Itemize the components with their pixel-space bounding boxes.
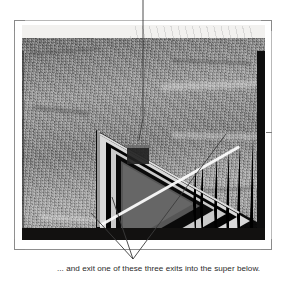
registration-line-bottom xyxy=(16,249,272,250)
entrance-block xyxy=(127,148,149,164)
registration-line-left xyxy=(14,22,15,250)
photograph xyxy=(22,25,265,240)
photo-bottom-dark-band xyxy=(22,228,265,240)
crop-mark-bottom-left xyxy=(14,239,25,250)
figure-page: ... and exit one of these three exits in… xyxy=(0,0,285,285)
photo-wood-background xyxy=(22,38,265,240)
photo-right-dark-band xyxy=(257,51,265,240)
figure-caption: ... and exit one of these three exits in… xyxy=(57,263,283,274)
registration-tick-right xyxy=(266,132,272,133)
triangle-left-edge-highlight xyxy=(97,131,100,227)
crop-mark-bottom-right xyxy=(261,239,272,250)
photo-left-edge-shadow xyxy=(22,51,24,240)
faint-scan-marks xyxy=(130,26,255,38)
